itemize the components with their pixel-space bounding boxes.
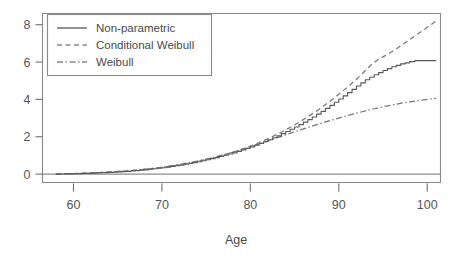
x-tick-label: 100 xyxy=(417,198,438,212)
x-tick-label: 60 xyxy=(67,198,81,212)
y-tick-label: 4 xyxy=(24,93,31,107)
x-axis-title: Age xyxy=(225,233,247,247)
legend-label-non-parametric: Non-parametric xyxy=(96,22,175,34)
legend: Non-parametric Conditional Weibull Weibu… xyxy=(48,15,212,76)
legend-label-conditional-weibull: Conditional Weibull xyxy=(96,39,194,51)
y-tick-label: 0 xyxy=(24,168,31,182)
legend-label-weibull: Weibull xyxy=(96,56,134,68)
x-tick-label: 80 xyxy=(243,198,257,212)
x-tick-label: 90 xyxy=(332,198,346,212)
y-tick-label: 6 xyxy=(24,56,31,70)
y-tick-label: 2 xyxy=(24,130,31,144)
hazard-plot-figure: 02468 60708090100 Non-parametric Conditi… xyxy=(0,0,472,262)
y-tick-label: 8 xyxy=(24,18,31,32)
x-tick-label: 70 xyxy=(155,198,169,212)
